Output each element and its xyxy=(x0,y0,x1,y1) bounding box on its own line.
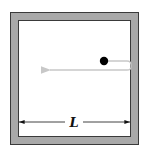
particle-ball xyxy=(100,57,108,65)
dimension-label: L xyxy=(68,115,78,130)
box-diagram: L xyxy=(0,0,149,158)
